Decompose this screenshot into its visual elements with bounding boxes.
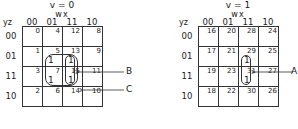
- label-c: C: [126, 84, 132, 94]
- label-b: B: [126, 66, 132, 76]
- label-a: A: [291, 66, 297, 76]
- leader-lines: [0, 0, 298, 129]
